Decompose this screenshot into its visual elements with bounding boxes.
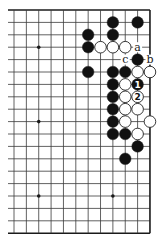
stone-disc [119,79,131,91]
stone-disc [107,91,119,103]
black-stone [132,141,144,153]
stone-disc [132,66,144,78]
star-point [37,45,41,49]
black-stone [119,153,131,165]
stone-disc [132,17,144,29]
black-stone [82,66,94,78]
stone-disc [107,116,119,128]
black-stone [107,116,119,128]
white-stone [119,103,131,115]
black-stone [82,41,94,53]
black-stone [107,91,119,103]
point-label-c: c [122,53,128,66]
stone-disc [119,116,131,128]
stone-disc [82,41,94,53]
star-point [111,194,115,198]
white-stone [144,116,156,128]
star-point [37,194,41,198]
stone-disc [82,66,94,78]
star-point [37,120,41,124]
stone-disc [107,29,119,41]
stone-disc [82,29,94,41]
black-stone [132,17,144,29]
stone-disc [119,103,131,115]
stone-disc [144,116,156,128]
stone-disc [132,128,144,140]
go-board: abc 12 [0,0,163,246]
white-stone [132,66,144,78]
white-stone [132,128,144,140]
stone-disc [107,66,119,78]
stone-disc [132,54,144,66]
black-stone [82,29,94,41]
point-label-a: a [134,41,141,54]
white-stone [119,116,131,128]
stone-disc [119,153,131,165]
point-label-b: b [146,53,153,66]
move-number-1: 1 [134,80,140,90]
stone-disc [119,41,131,53]
black-stone [107,103,119,115]
white-stone: 2 [132,91,144,103]
stone-disc [119,66,131,78]
stone-disc [119,91,131,103]
black-stone [107,29,119,41]
black-stone: 1 [132,79,144,91]
white-stone [95,41,107,53]
black-stone [132,54,144,66]
stone-disc [144,66,156,78]
move-number-2: 2 [134,92,140,102]
stone-disc [119,128,131,140]
black-stone [107,128,119,140]
white-stone [132,103,144,115]
stone-disc [107,17,119,29]
white-stone [119,91,131,103]
white-stone [119,79,131,91]
black-stone [107,17,119,29]
stone-disc [132,103,144,115]
white-stone [144,66,156,78]
stones: 12 [82,17,155,165]
black-stone [107,66,119,78]
stone-disc [132,141,144,153]
black-stone [119,128,131,140]
stone-disc [107,79,119,91]
stone-disc [107,41,119,53]
white-stone [119,41,131,53]
stone-disc [107,128,119,140]
black-stone [107,79,119,91]
stone-disc [95,41,107,53]
stone-disc [107,103,119,115]
black-stone [119,66,131,78]
white-stone [107,41,119,53]
